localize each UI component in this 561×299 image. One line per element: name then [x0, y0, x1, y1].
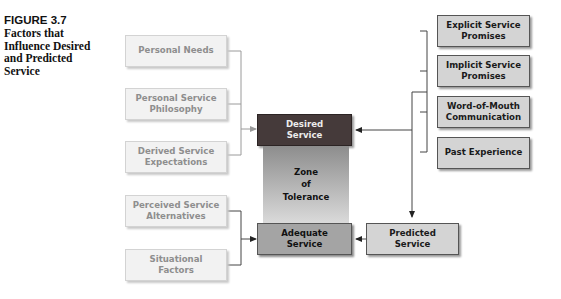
factor-explicit-service-promises: Explicit ServicePromises — [437, 15, 530, 47]
factor-implicit-service-promises: Implicit ServicePromises — [437, 55, 530, 87]
factor-situational-factors: SituationalFactors — [125, 249, 227, 281]
factor-derived-service-expectations: Derived ServiceExpectations — [125, 141, 227, 173]
zone-of-tolerance: ZoneofTolerance — [263, 146, 349, 223]
predicted-service-box: PredictedService — [366, 223, 459, 255]
factor-perceived-service-alternatives: Perceived ServiceAlternatives — [125, 195, 227, 227]
factor-personal-service-philosophy: Personal ServicePhilosophy — [125, 88, 227, 120]
factor-personal-needs: Personal Needs — [125, 35, 227, 67]
adequate-service-box: AdequateService — [257, 223, 352, 255]
desired-service-box: DesiredService — [257, 114, 352, 146]
factor-word-of-mouth-communication: Word-of-MouthCommunication — [437, 96, 530, 128]
factor-past-experience: Past Experience — [437, 137, 530, 169]
